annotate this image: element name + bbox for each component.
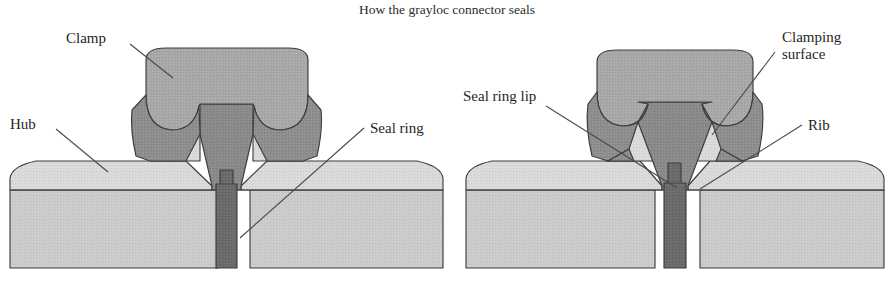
label-clamping-surface-line2: surface xyxy=(782,46,826,62)
label-seal-ring: Seal ring xyxy=(370,120,424,136)
hub-base-left-r xyxy=(466,190,655,268)
figure-title: How the grayloc connector seals xyxy=(359,2,535,17)
hub-base-right-r xyxy=(700,190,884,268)
left-diagram: Clamp Hub Seal ring xyxy=(10,30,443,268)
hub-base-right xyxy=(250,190,443,268)
label-seal-ring-lip: Seal ring lip xyxy=(463,88,536,104)
grayloc-connector-figure: How the grayloc connector seals xyxy=(0,0,894,281)
diagram-canvas: How the grayloc connector seals xyxy=(0,0,894,281)
label-hub: Hub xyxy=(10,116,36,132)
hub-flange-left xyxy=(10,161,212,190)
seal-ring-left xyxy=(216,170,237,268)
hub-flange-right xyxy=(241,161,443,190)
label-clamping-surface-line1: Clamping xyxy=(782,29,842,45)
label-clamping-surface: Clamping surface xyxy=(782,29,845,62)
hub-base-left xyxy=(10,190,218,268)
hub-flange-right-r xyxy=(688,161,884,190)
label-clamp: Clamp xyxy=(66,30,106,46)
label-rib: Rib xyxy=(808,117,830,133)
right-diagram: Seal ring lip Clamping surface Rib xyxy=(463,29,884,268)
hub-flange-left-r xyxy=(466,161,662,190)
